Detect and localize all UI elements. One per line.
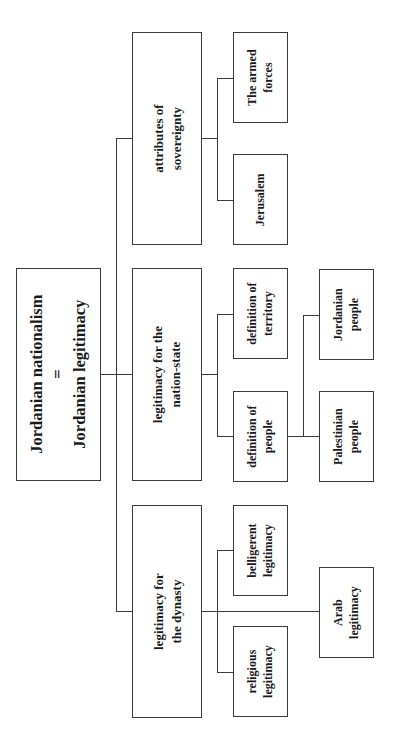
node-label-line1: definition of [245, 405, 261, 467]
node-label-line2: legitimacy [261, 523, 277, 577]
connector-people [217, 436, 233, 437]
node-attributes-of-sovereignty: attributes of sovereignty [132, 32, 202, 245]
node-label-line2: sovereignty [167, 104, 185, 172]
node-label-line2: legitimacy [347, 586, 363, 639]
connector-territory [217, 314, 233, 315]
node-label-line1: religious [245, 645, 261, 698]
connector-trunk-dynasty [116, 611, 132, 612]
connector-jerusalem [217, 200, 233, 201]
node-label-line2: nation-state [167, 326, 185, 423]
node-arab-legitimacy: Arab legitimacy [319, 567, 374, 658]
connector-religious [217, 672, 233, 673]
node-label-line2: territory [261, 282, 277, 344]
node-label-line2: people [347, 288, 363, 341]
node-label-line1: belligerent [245, 523, 261, 577]
connector-armed-forces [217, 78, 233, 79]
connector-nation-state-out [201, 374, 217, 375]
connector-belligerent [217, 550, 233, 551]
node-belligerent-legitimacy: belligerent legitimacy [233, 505, 288, 596]
connector-nation-state-bus [217, 314, 218, 436]
node-definition-of-territory: definition of territory [233, 268, 288, 359]
root-line2: = [48, 295, 69, 454]
node-label-line1: definition of [245, 282, 261, 344]
node-label-line1: legitimacy for the [149, 326, 167, 423]
node-label-line1: Jerusalem [253, 173, 269, 226]
node-label-line1: Palestinian [331, 408, 347, 465]
root-line1: Jordanian nationalism [26, 295, 47, 454]
node-religious-legitimacy: religious legitimacy [233, 626, 288, 717]
connector-sovereignty-bus [217, 78, 218, 200]
node-label-line2: forces [261, 49, 277, 105]
node-palestinian-people: Palestinian people [319, 391, 374, 482]
node-jordanian-people: Jordanian people [319, 269, 374, 360]
connector-people-out [287, 436, 303, 437]
node-label-line1: Jordanian [331, 288, 347, 341]
connector-people-bus [303, 315, 304, 437]
connector-root-trunk [100, 374, 116, 375]
connector-trunk-nation-state [116, 374, 132, 375]
node-legitimacy-dynasty: legitimacy for the dynasty [132, 505, 202, 718]
node-label-line1: The armed [245, 49, 261, 105]
root-line3: Jordanian legitimacy [69, 295, 90, 454]
node-label-line2: legitimacy [261, 645, 277, 698]
connector-trunk-sovereignty [116, 138, 132, 139]
node-label-line1: attributes of [149, 104, 167, 172]
node-label-line1: legitimacy for [149, 573, 167, 650]
node-label-line2: people [347, 408, 363, 465]
node-label-line1: Arab [331, 586, 347, 639]
node-definition-of-people: definition of people [233, 391, 288, 482]
connector-sovereignty-out [201, 138, 217, 139]
node-jerusalem: Jerusalem [233, 154, 288, 245]
node-label-line2: the dynasty [167, 573, 185, 650]
node-legitimacy-nation-state: legitimacy for the nation-state [132, 268, 202, 481]
connector-dynasty-out [201, 611, 319, 612]
connector-jordanian-people [303, 315, 319, 316]
node-label-line2: people [261, 405, 277, 467]
node-armed-forces: The armed forces [233, 32, 288, 123]
connector-palestinian-people [303, 436, 319, 437]
root-node: Jordanian nationalism = Jordanian legiti… [16, 268, 101, 481]
connector-dynasty-bus [217, 550, 218, 672]
